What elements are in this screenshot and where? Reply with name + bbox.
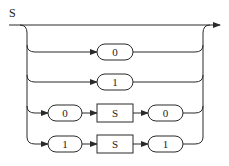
alternative-terminal-0: 0 (27, 44, 203, 60)
rule-name-label: S (9, 6, 16, 20)
terminal-label: 1 (163, 138, 169, 150)
railroad-diagram: S 0 1 0 S 0 1 S (0, 0, 229, 166)
alternative-terminal-1: 1 (27, 74, 203, 90)
terminal-label: 0 (163, 107, 169, 119)
terminal-label: 1 (62, 138, 68, 150)
nonterminal-label: S (112, 138, 118, 150)
alternative-1-s-1: 1 S 1 (27, 135, 203, 153)
alternative-0-s-0: 0 S 0 (27, 104, 203, 122)
nonterminal-label: S (112, 107, 118, 119)
right-merge-spine (203, 25, 210, 137)
terminal-label: 0 (62, 107, 68, 119)
left-branch-spine (20, 25, 27, 137)
terminal-label: 1 (112, 76, 118, 88)
terminal-label: 0 (112, 46, 118, 58)
